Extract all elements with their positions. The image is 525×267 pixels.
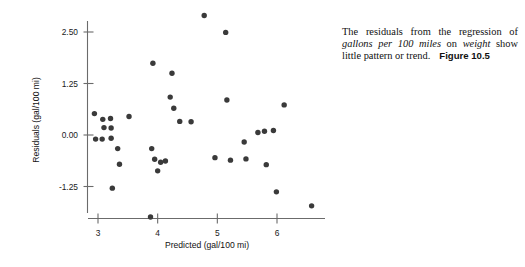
data-point — [281, 102, 286, 107]
data-point — [99, 136, 104, 141]
figure-number-label: Figure 10.5 — [430, 50, 490, 61]
y-axis-tick-labels: 2.501.250.00-1.25 — [59, 27, 78, 192]
data-point — [224, 97, 229, 102]
x-tick-label: 6 — [275, 228, 280, 238]
caption-emphasis-weight: weight — [463, 38, 491, 49]
data-point — [149, 146, 154, 151]
data-point — [108, 116, 113, 121]
data-point — [168, 94, 173, 99]
residuals-scatterplot: 2.501.250.00-1.25 3456 Predicted (gal/10… — [0, 0, 340, 267]
scatter-points — [92, 13, 315, 220]
y-axis-ticks — [84, 32, 94, 187]
y-tick-label: 1.25 — [62, 79, 79, 89]
data-point — [163, 158, 168, 163]
data-point — [177, 119, 182, 124]
data-point — [92, 111, 97, 116]
data-point — [223, 30, 228, 35]
data-point — [202, 13, 207, 18]
data-point — [274, 189, 279, 194]
y-axis-title: Residuals (gal/100 mi) — [31, 77, 41, 163]
data-point — [264, 162, 269, 167]
caption-text-part1: The residuals from the regression of — [342, 26, 518, 37]
data-point — [255, 130, 260, 135]
data-point — [93, 136, 98, 141]
figure-caption: The residuals from the regression of gal… — [342, 26, 518, 62]
data-point — [110, 185, 115, 190]
data-point — [108, 136, 113, 141]
y-tick-label: 0.00 — [62, 130, 79, 140]
x-axis-title: Predicted (gal/100 mi) — [165, 240, 249, 250]
data-point — [188, 119, 193, 124]
data-point — [108, 125, 113, 130]
x-tick-label: 4 — [155, 228, 160, 238]
data-point — [148, 214, 153, 219]
data-point — [262, 129, 267, 134]
data-point — [212, 155, 217, 160]
data-point — [241, 139, 246, 144]
y-tick-label: -1.25 — [59, 182, 78, 192]
data-point — [115, 146, 120, 151]
data-point — [150, 61, 155, 66]
x-tick-label: 3 — [96, 228, 101, 238]
data-point — [126, 114, 131, 119]
data-point — [101, 125, 106, 130]
x-tick-label: 5 — [215, 228, 220, 238]
y-tick-label: 2.50 — [62, 27, 79, 37]
data-point — [271, 128, 276, 133]
caption-text-part2: on — [441, 38, 463, 49]
figure-container: 2.501.250.00-1.25 3456 Predicted (gal/10… — [0, 0, 340, 267]
data-point — [228, 157, 233, 162]
data-point — [171, 106, 176, 111]
data-point — [152, 157, 157, 162]
x-axis-tick-labels: 3456 — [96, 228, 280, 238]
data-point — [158, 159, 163, 164]
data-point — [243, 156, 248, 161]
data-point — [309, 203, 314, 208]
caption-emphasis-gallons: gallons per 100 miles — [342, 38, 441, 49]
data-point — [155, 168, 160, 173]
data-point — [169, 71, 174, 76]
data-point — [100, 117, 105, 122]
data-point — [117, 162, 122, 167]
